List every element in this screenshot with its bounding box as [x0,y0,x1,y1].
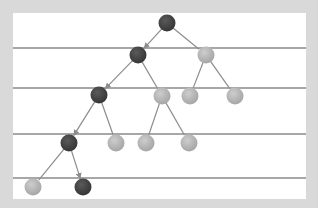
tree-node-light-n10 [181,135,198,152]
edge-n0-n2 [171,26,199,49]
tree-node-light-n8 [108,135,125,152]
tree-node-dark-n12 [75,179,92,196]
edge-n1-n3 [105,59,134,89]
edge-n7-n11 [39,147,66,180]
edge-n3-n7 [74,99,97,135]
tree-node-light-n4 [154,88,171,105]
tree-node-dark-n0 [159,15,176,32]
tree-diagram [0,0,318,208]
tree-nodes [25,15,244,196]
tree-node-light-n9 [138,135,155,152]
edge-n3-n8 [101,100,113,135]
tree-node-dark-n3 [91,87,108,104]
edge-n1-n4 [141,59,158,88]
edge-n2-n6 [209,59,230,88]
tree-node-light-n5 [182,88,199,105]
tree-node-light-n6 [227,88,244,105]
tree-node-light-n2 [198,47,215,64]
tree-node-light-n11 [25,179,42,196]
edge-n4-n9 [149,101,160,135]
edge-n2-n5 [193,60,204,88]
tree-node-dark-n7 [61,135,78,152]
edge-n7-n12 [71,148,81,179]
edge-n4-n10 [165,100,185,135]
tree-node-dark-n1 [130,47,147,64]
edge-n0-n1 [144,27,164,49]
